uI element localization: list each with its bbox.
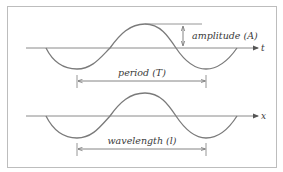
wavelength-label: wavelength (l) bbox=[107, 135, 176, 146]
wave-diagram: t amplitude (A) period (T) x wavelength … bbox=[0, 0, 283, 172]
time-axis-label: t bbox=[261, 43, 265, 53]
period-label: period (T) bbox=[118, 67, 166, 78]
amplitude-label: amplitude (A) bbox=[192, 30, 258, 41]
space-axis-label: x bbox=[261, 111, 266, 121]
